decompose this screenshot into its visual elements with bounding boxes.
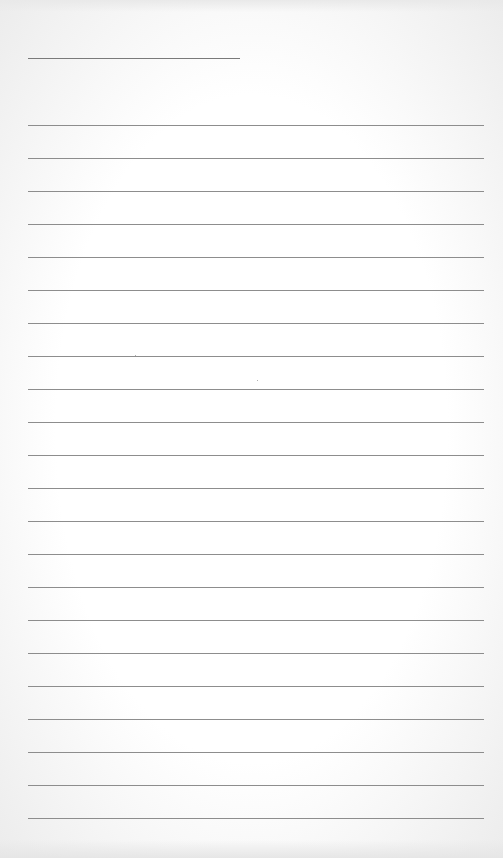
ruled-line <box>28 653 484 654</box>
ruled-line <box>28 620 484 621</box>
ruled-line <box>28 521 484 522</box>
ruled-line <box>28 455 484 456</box>
ruled-line <box>28 224 484 225</box>
ruled-line <box>28 785 484 786</box>
ruled-line <box>28 686 484 687</box>
ruled-line <box>28 587 484 588</box>
ruled-line <box>28 752 484 753</box>
lined-paper-page <box>0 0 503 858</box>
title-line <box>28 58 240 59</box>
ruled-line <box>28 719 484 720</box>
ruled-line <box>28 158 484 159</box>
ruled-line <box>28 356 484 357</box>
ruled-line <box>28 290 484 291</box>
ruled-line <box>28 554 484 555</box>
ruled-line <box>28 257 484 258</box>
ruled-line <box>28 818 484 819</box>
speck <box>257 380 258 381</box>
ruled-line <box>28 488 484 489</box>
speck <box>135 355 136 356</box>
ruled-line <box>28 422 484 423</box>
ruled-line <box>28 125 484 126</box>
ruled-line <box>28 323 484 324</box>
ruled-line <box>28 389 484 390</box>
ruled-line <box>28 191 484 192</box>
